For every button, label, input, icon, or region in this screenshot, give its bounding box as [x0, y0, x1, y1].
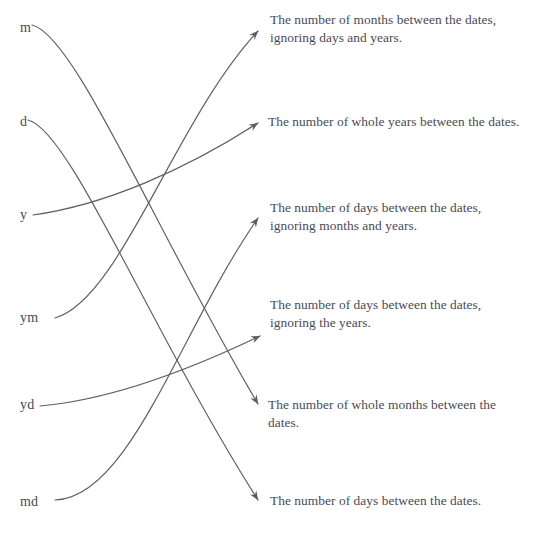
connector-d-to-r6 — [28, 120, 258, 500]
left-label-md[interactable]: md — [20, 495, 38, 509]
connector-y-to-r2 — [33, 123, 258, 215]
left-label-m[interactable]: m — [20, 21, 31, 35]
connector-ym-to-r1 — [55, 31, 258, 318]
left-label-d[interactable]: d — [20, 115, 27, 129]
left-label-ym[interactable]: ym — [20, 311, 38, 325]
connector-layer — [0, 0, 534, 544]
right-description-days-between-dates[interactable]: The number of days between the dates. — [270, 492, 528, 510]
connector-m-to-r5 — [32, 25, 258, 404]
diagram-canvas: m d y ym yd md The number of months betw… — [0, 0, 534, 544]
connector-md-to-r3 — [55, 218, 258, 500]
right-description-months-ignoring-days-years[interactable]: The number of months between the dates, … — [270, 11, 528, 46]
connector-yd-to-r4 — [40, 336, 260, 406]
right-description-days-ignoring-months-years[interactable]: The number of days between the dates, ig… — [270, 199, 528, 234]
left-label-yd[interactable]: yd — [20, 398, 34, 412]
left-label-y[interactable]: y — [20, 208, 27, 222]
right-description-whole-years[interactable]: The number of whole years between the da… — [268, 113, 532, 131]
right-description-whole-months[interactable]: The number of whole months between the d… — [268, 396, 512, 431]
right-description-days-ignoring-years[interactable]: The number of days between the dates, ig… — [270, 296, 528, 331]
